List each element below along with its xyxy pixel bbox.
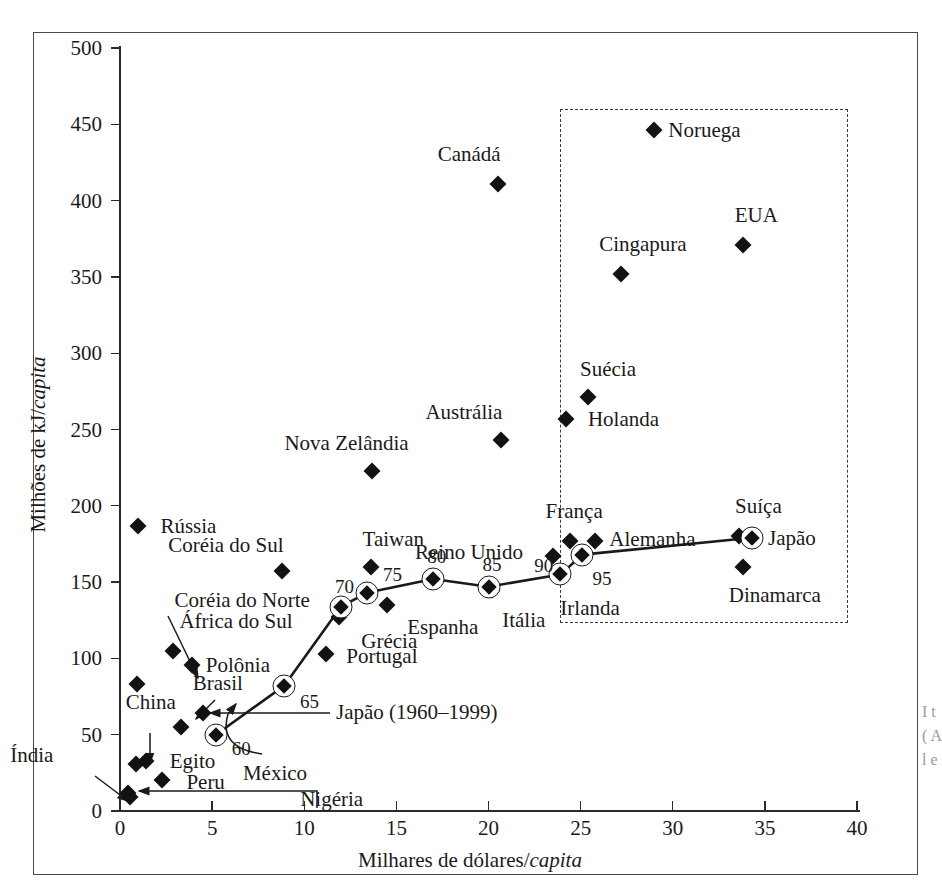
x-axis-title-italic: capita bbox=[529, 848, 582, 872]
japan-year-label: 75 bbox=[383, 565, 402, 584]
y-tick bbox=[111, 124, 120, 125]
japan-year-label: 90 bbox=[534, 556, 553, 575]
data-point-label: Peru bbox=[186, 772, 225, 793]
data-point-marker bbox=[154, 772, 171, 789]
japan-year-label: 60 bbox=[232, 739, 251, 758]
data-point-label: Índia bbox=[10, 745, 53, 766]
data-point-label: Alemanha bbox=[609, 529, 695, 550]
data-point-marker bbox=[364, 462, 381, 479]
x-tick bbox=[764, 801, 765, 810]
data-point-label: Cingapura bbox=[599, 234, 686, 255]
data-point-label: África do Sul bbox=[179, 611, 292, 632]
data-point-marker bbox=[493, 432, 510, 449]
data-point-label: Nigéria bbox=[300, 789, 363, 810]
y-tick bbox=[111, 581, 120, 582]
data-point-label: Austrália bbox=[425, 402, 502, 423]
data-point-label: Espanha bbox=[407, 617, 478, 638]
x-axis-title-main: Milhares de dólares/ bbox=[358, 848, 529, 872]
y-tick-label: 0 bbox=[40, 799, 102, 824]
data-point-label: Itália bbox=[502, 610, 545, 631]
y-tick bbox=[111, 353, 120, 354]
data-point-label: Coréia do Sul bbox=[168, 535, 284, 556]
data-point-marker bbox=[165, 642, 182, 659]
x-tick bbox=[856, 801, 857, 810]
data-point-marker bbox=[130, 517, 147, 534]
data-point-label: Egito bbox=[170, 751, 216, 772]
x-tick bbox=[211, 801, 212, 810]
x-tick bbox=[488, 801, 489, 810]
x-axis-line bbox=[120, 810, 860, 812]
x-tick-label: 40 bbox=[827, 816, 887, 841]
series-callout-label: Japão (1960–1999) bbox=[336, 702, 498, 723]
data-point-label: Suíça bbox=[735, 496, 782, 517]
x-tick bbox=[119, 801, 120, 810]
x-tick-label: 5 bbox=[182, 816, 242, 841]
x-tick-label: 20 bbox=[459, 816, 519, 841]
x-tick-label: 35 bbox=[735, 816, 795, 841]
cropped-caption-text: I t ( A l e bbox=[922, 700, 942, 830]
x-tick-label: 25 bbox=[551, 816, 611, 841]
x-tick-label: 15 bbox=[366, 816, 426, 841]
japan-year-label: 70 bbox=[335, 577, 354, 596]
y-tick-label: 350 bbox=[40, 265, 102, 290]
japan-year-label: 85 bbox=[483, 555, 502, 574]
x-tick-label: 10 bbox=[274, 816, 334, 841]
japan-endpoint-label: Japão bbox=[768, 528, 816, 549]
y-tick bbox=[111, 47, 120, 48]
y-tick-label: 100 bbox=[40, 646, 102, 671]
data-point-label: Canádá bbox=[438, 144, 501, 165]
y-tick bbox=[111, 429, 120, 430]
data-point-marker bbox=[172, 719, 189, 736]
y-tick-label: 450 bbox=[40, 112, 102, 137]
data-point-marker bbox=[274, 563, 291, 580]
data-point-label: Holanda bbox=[588, 409, 659, 430]
y-axis-title: Milhões de kJ/capita bbox=[26, 295, 51, 595]
x-tick-label: 30 bbox=[643, 816, 703, 841]
y-tick bbox=[111, 658, 120, 659]
data-point-label: China bbox=[126, 692, 176, 713]
y-tick bbox=[111, 200, 120, 201]
y-tick bbox=[111, 810, 120, 811]
data-point-label: Noruega bbox=[668, 120, 740, 141]
x-axis-title: Milhares de dólares/capita bbox=[0, 848, 940, 873]
data-point-label: Nova Zelândia bbox=[284, 433, 408, 454]
data-point-label: Irlanda bbox=[560, 598, 619, 619]
japan-year-label: 95 bbox=[592, 569, 611, 588]
data-point-marker bbox=[194, 705, 211, 722]
data-point-label: Brasil bbox=[193, 673, 243, 694]
x-tick bbox=[580, 801, 581, 810]
data-point-marker bbox=[318, 645, 335, 662]
y-tick-label: 500 bbox=[40, 36, 102, 61]
y-tick-label: 400 bbox=[40, 189, 102, 214]
y-tick bbox=[111, 276, 120, 277]
data-point-marker bbox=[362, 558, 379, 575]
data-point-label: França bbox=[546, 501, 603, 522]
data-point-label: EUA bbox=[735, 205, 778, 226]
y-tick bbox=[111, 505, 120, 506]
data-point-label: Dinamarca bbox=[729, 585, 821, 606]
y-axis-title-main: Milhões de kJ/ bbox=[26, 409, 50, 533]
japan-year-label: 65 bbox=[300, 692, 319, 711]
data-point-marker bbox=[379, 596, 396, 613]
data-point-label: México bbox=[243, 763, 307, 784]
japan-year-label: 80 bbox=[427, 547, 446, 566]
data-point-marker bbox=[489, 175, 506, 192]
data-point-label: Suécia bbox=[580, 359, 636, 380]
y-axis-title-italic: capita bbox=[26, 356, 50, 409]
x-tick bbox=[672, 801, 673, 810]
y-tick bbox=[111, 734, 120, 735]
x-tick bbox=[396, 801, 397, 810]
